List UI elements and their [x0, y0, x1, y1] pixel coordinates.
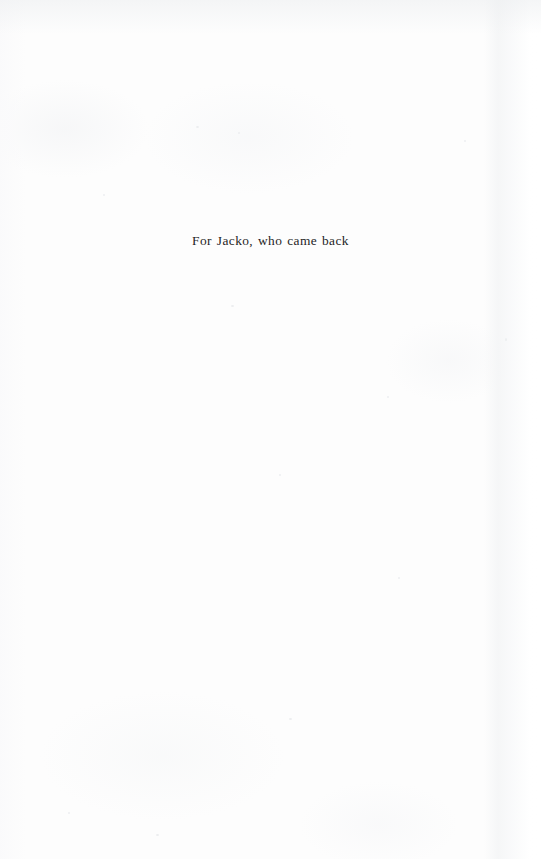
paper-speck	[289, 718, 292, 720]
paper-speck	[196, 126, 199, 128]
paper-speck	[279, 474, 281, 476]
paper-speck	[238, 132, 240, 134]
dedication-text: For Jacko, who came back	[0, 231, 541, 250]
paper-speck	[156, 834, 159, 836]
paper-speck	[231, 305, 234, 307]
paper-speck	[505, 338, 507, 341]
paper-speck	[103, 194, 105, 196]
dedication-page: For Jacko, who came back	[0, 0, 541, 859]
paper-speck	[464, 140, 466, 142]
paper-speck	[68, 812, 70, 814]
paper-speck	[398, 577, 400, 579]
paper-speck	[387, 396, 389, 398]
